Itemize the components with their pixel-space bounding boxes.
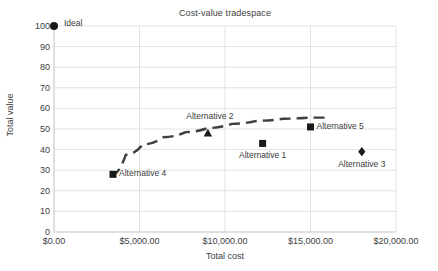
point-label-alternative-4: Alternative 4 xyxy=(119,169,166,178)
y-axis-tick-label: 100 xyxy=(4,21,50,31)
y-axis-tick-label: 20 xyxy=(4,186,50,196)
point-label-alternative-1: Alternative 1 xyxy=(239,151,286,160)
plot-area: Alternative 4Alternative 2Alternative 1A… xyxy=(54,26,396,232)
square-marker-icon xyxy=(259,140,266,147)
x-axis-tick-label: $5,000.00 xyxy=(119,236,159,246)
chart-title: Cost-value tradespace xyxy=(54,8,396,18)
point-label-alternative-3: Alternative 3 xyxy=(338,160,385,169)
diamond-marker-icon xyxy=(358,147,365,156)
y-axis-tick-label: 90 xyxy=(4,42,50,52)
data-point-alternative-5[interactable] xyxy=(307,123,314,130)
point-label-alternative-2: Alternative 2 xyxy=(186,112,233,121)
x-axis-tick-label: $20,000.00 xyxy=(373,236,418,246)
data-point-alternative-3[interactable] xyxy=(358,147,365,156)
y-axis-tick-label: 80 xyxy=(4,62,50,72)
x-axis-tick-label: $0.00 xyxy=(43,236,66,246)
x-axis-tick-label: $10,000.00 xyxy=(202,236,247,246)
data-point-alternative-1[interactable] xyxy=(259,140,266,147)
ideal-marker-icon xyxy=(50,22,58,30)
x-axis-tick-labels: $0.00$5,000.00$10,000.00$15,000.00$20,00… xyxy=(54,236,396,250)
y-axis-title: Total value xyxy=(5,75,15,155)
square-marker-icon xyxy=(109,171,116,178)
point-label-alternative-5: Alternative 5 xyxy=(317,122,364,131)
y-axis-tick-label: 30 xyxy=(4,165,50,175)
data-point-alternative-4[interactable] xyxy=(109,171,116,178)
chart-container: Cost-value tradespace 010203040506070809… xyxy=(0,0,438,271)
x-axis-title: Total cost xyxy=(54,251,396,261)
pareto-frontier-curve xyxy=(111,118,326,176)
ideal-label: Ideal xyxy=(64,18,82,28)
square-marker-icon xyxy=(307,123,314,130)
x-axis-tick-label: $15,000.00 xyxy=(288,236,333,246)
y-axis-tick-label: 10 xyxy=(4,206,50,216)
